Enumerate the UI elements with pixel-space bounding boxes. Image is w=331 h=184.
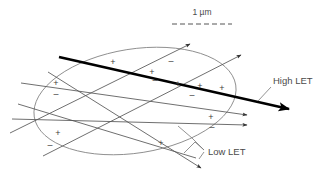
scale-bar-label: 1 µm [192, 7, 211, 17]
ionization-mark: + [208, 112, 213, 122]
high-let-label: High LET [273, 75, 313, 86]
ionization-mark: – [168, 56, 173, 66]
low-let-track-6 [18, 104, 196, 158]
ionization-mark: – [152, 75, 157, 85]
ionization-mark: – [47, 140, 52, 150]
high-let-track [59, 57, 289, 109]
ionization-mark: – [209, 122, 214, 132]
ionization-mark: + [158, 138, 163, 148]
low-let-track-2 [43, 55, 241, 156]
ionization-mark: + [55, 128, 60, 138]
ionization-mark: + [219, 83, 224, 93]
high-let-label-group: High LET [258, 75, 313, 101]
low-let-leader-line-2 [184, 142, 204, 153]
high-let-leader-line [258, 87, 271, 101]
ionization-mark: + [197, 81, 202, 91]
low-let-label: Low LET [208, 146, 246, 157]
ionization-mark: – [189, 90, 194, 100]
ionization-mark: – [53, 89, 58, 99]
low-let-leader-line-3 [199, 152, 204, 159]
scale-bar-group: 1 µm [172, 7, 232, 24]
ionization-mark: + [175, 79, 180, 89]
ionization-mark: + [110, 57, 115, 67]
ionization-mark: + [53, 78, 58, 88]
ionization-marks-group: + – + + – + + – + – + – + – + [47, 56, 224, 150]
diagram-canvas: 1 µm + – + + – + + – + – + [0, 0, 331, 184]
let-track-structure-diagram: 1 µm + – + + – + + – + – + [0, 0, 331, 184]
